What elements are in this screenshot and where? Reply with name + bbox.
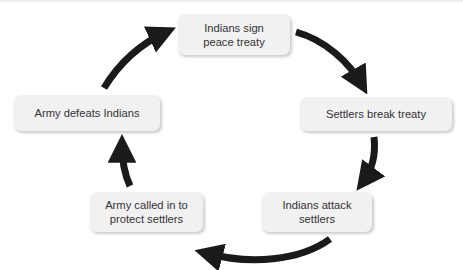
arrow-right-to-bottomright — [363, 137, 375, 182]
node-label: Settlers break treaty — [326, 107, 426, 121]
node-army-called-in-to-protect-settlers[interactable]: Army called in to protect settlers — [90, 192, 203, 232]
node-indians-attack-settlers[interactable]: Indians attack settlers — [262, 192, 372, 232]
node-army-defeats-indians[interactable]: Army defeats Indians — [14, 95, 160, 131]
arrow-top-to-right — [296, 32, 362, 85]
node-settlers-break-treaty[interactable]: Settlers break treaty — [300, 97, 452, 131]
node-label: Army defeats Indians — [34, 106, 139, 120]
arrow-bottomleft-to-left — [122, 145, 130, 186]
arrow-bottomright-to-bottomleft — [205, 239, 330, 260]
node-label: Indians attack settlers — [282, 198, 351, 226]
cycle-diagram: Indians sign peace treaty Settlers break… — [0, 0, 463, 270]
arrow-left-to-top — [104, 32, 166, 88]
node-label: Army called in to protect settlers — [105, 198, 188, 226]
node-label: Indians sign peace treaty — [203, 21, 265, 49]
node-indians-sign-peace-treaty[interactable]: Indians sign peace treaty — [178, 14, 290, 55]
